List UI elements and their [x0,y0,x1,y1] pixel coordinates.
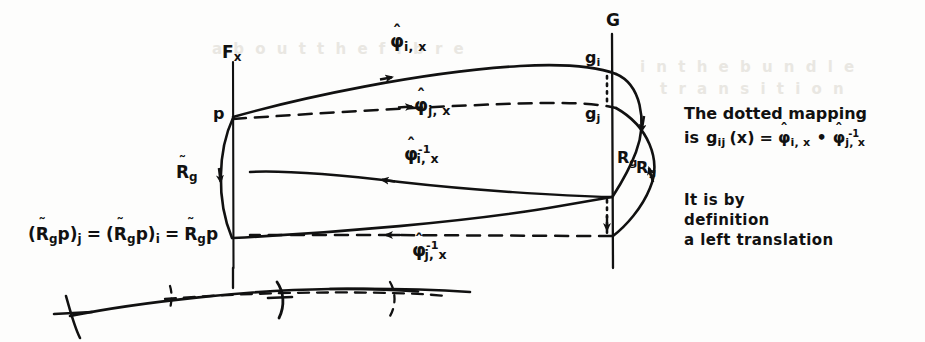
phi-hat-glyph: ˆφ [414,96,428,114]
note-dotted-mapping-line2: isgij(x)= ˆφi, x• ˆφj, x-1 [684,128,867,151]
label-F-subscript: x [234,50,242,64]
subscript-j-x: j, x [425,247,447,262]
base-manifold-curve [54,268,470,338]
label-R-tilde-g: ˜Rg [176,164,198,184]
phi-hat-glyph: ˆφ [412,241,426,259]
label-group-G: G [606,12,620,29]
subscript-g: g [648,166,656,179]
label-g-i-subscript: i [596,56,600,69]
label-R-g-upper: Rg [617,150,638,168]
p-glyph-1: p [58,224,70,244]
arc-R-tilde-g [219,118,233,238]
label-g-j-base: g [585,104,596,123]
fiber-line-G [612,34,613,268]
R-glyph: R [617,148,629,167]
note-dotted-mapping: The dotted mapping isgij(x)= ˆφi, x• ˆφj… [684,104,867,150]
hat-accent-icon: ˆ [393,24,402,41]
inverse-exponent: -1 [848,128,859,139]
tilde-accent-icon: ˜ [187,216,195,232]
paren-close-2: ) [148,224,156,244]
R-tilde-glyph: ˜R [176,164,189,181]
paren-close-x: ) [747,128,754,147]
is-word: is [684,128,699,147]
curve-phi-hat-i-x-inverse [250,172,612,197]
hat-accent-icon: ˆ [415,233,424,250]
label-fiber-Fx: Fx [222,44,242,64]
hat-accent-icon: ˆ [417,88,426,105]
label-phi-hat-j-x-inverse: ˆφ-1j, x [412,240,447,262]
label-g-i: gi [585,50,601,68]
equals-2: = [160,224,184,244]
equals-mapping: = [755,128,778,147]
p-glyph-3: p [206,224,218,244]
equation-bottom-left: ( ˜Rgp)j=( ˜Rgp)i= ˜Rgp [28,226,218,246]
label-g-j-subscript: j [596,112,600,125]
phi-hat-glyph: ˆφ [833,128,846,149]
hat-accent-icon: ˆ [835,121,843,141]
subscript-i-x: i, x [417,151,439,166]
paren-open-2: ( [106,224,114,244]
composition-dot: • [810,128,832,147]
R-tilde-glyph: ˜R [114,226,127,243]
subscript-i-x: i, x [404,39,426,54]
label-point-p: p [213,106,224,122]
tilde-accent-icon: ˜ [178,154,186,170]
phi-hat-glyph: ˆφ [390,32,404,50]
label-phi-hat-i-x: ˆφi, x [390,32,427,53]
subscript-g: g [49,232,58,246]
diagram-strokes [0,0,925,342]
tilde-accent-icon: ˜ [38,216,46,232]
paren-open-x: ( [726,128,737,147]
g-ij-base: g [699,128,717,147]
note-left-translation: It is by definition a left translation [684,190,834,250]
note-left-translation-line3: a left translation [684,230,834,250]
note-left-translation-line1: It is by [684,190,834,210]
phi-hat-glyph: ˆφ [778,128,791,149]
subscript-g: g [189,170,198,184]
hat-accent-icon: ˆ [407,137,416,154]
subscript-g: g [127,232,136,246]
R-glyph: R [636,158,648,177]
tilde-accent-icon: ˜ [116,216,124,232]
curve-phi-hat-j-x-inverse-dashed [250,235,612,236]
paren-open-1: ( [28,224,36,244]
paren-close-1: ) [70,224,78,244]
equals-1: = [82,224,106,244]
p-glyph-2: p [136,224,148,244]
label-phi-hat-i-x-inverse: ˆφ-1i, x [404,144,439,166]
label-phi-hat-j-x: ˆφj, x [414,96,451,117]
phi-hat-glyph: ˆφ [404,145,418,163]
figure-canvas: a b o u t t h e f i b r e i n t h e b u … [0,0,925,342]
R-tilde-glyph: ˜R [184,226,197,243]
note-left-translation-line2: definition [684,210,834,230]
subscript-g: g [197,232,206,246]
subscript-j-x: j, x [428,103,450,118]
subscript-i-x: i, x [790,136,810,149]
g-ij-subscript: ij [717,136,725,149]
label-F: F [222,42,234,62]
x-argument: x [737,128,747,147]
label-g-j: gj [585,106,601,124]
label-R-g-lower: Rg [636,160,657,178]
label-g-i-base: g [585,48,596,67]
R-tilde-glyph: ˜R [36,226,49,243]
hat-accent-icon: ˆ [780,121,788,141]
